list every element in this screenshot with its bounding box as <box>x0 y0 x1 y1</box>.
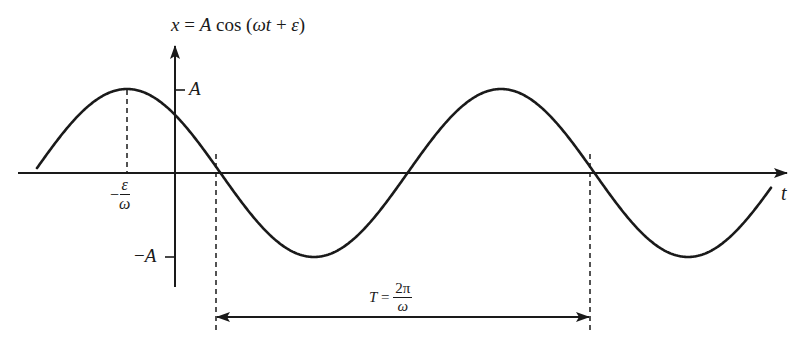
period-numerator: 2π <box>393 281 412 298</box>
phase-numerator: ε <box>120 177 130 195</box>
phase-label: −εω <box>110 177 130 212</box>
label-A-negative: A <box>145 245 157 266</box>
phase-minus: − <box>110 186 119 203</box>
period-fraction: 2πω <box>393 281 412 314</box>
eq-cos: cos ( <box>211 14 252 35</box>
eq-omega-t: ωt <box>252 14 271 35</box>
phase-denominator: ω <box>119 195 130 212</box>
label-t: t <box>781 182 787 205</box>
equation-title: x = A cos (ωt + ε) <box>171 14 305 36</box>
period-label: T = 2πω <box>369 281 412 314</box>
label-A: A <box>189 78 201 100</box>
eq-A: A <box>200 14 212 35</box>
eq-plus: + <box>271 14 291 35</box>
label-minus-A: −A <box>134 245 156 267</box>
eq-equals: = <box>179 14 199 35</box>
eq-epsilon: ε <box>291 14 299 35</box>
phase-fraction: εω <box>119 177 130 212</box>
eq-close-paren: ) <box>299 14 305 35</box>
period-equals: = <box>377 289 393 305</box>
minus-sign: − <box>134 245 145 266</box>
period-denominator: ω <box>398 298 409 314</box>
